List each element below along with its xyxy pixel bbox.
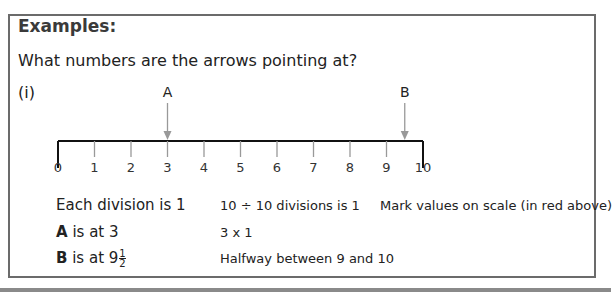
tick-label: 4 [200,160,208,175]
row-division-mid: 10 ÷ 10 divisions is 1 [220,198,360,213]
label-b: B [56,249,67,267]
row-b-left: B is at 912 [56,249,126,268]
tick-label: 6 [273,160,281,175]
tick-label: 3 [163,160,171,175]
tick-label: 7 [309,160,317,175]
arrow-label-a: A [163,84,173,100]
tick-label: 5 [236,160,244,175]
row-a-left: A is at 3 [56,223,119,241]
row-division-right: Mark values on scale (in red above) [380,198,612,213]
row-division-left: Each division is 1 [56,196,186,214]
fraction-half: 12 [119,249,125,268]
row-a-mid: 3 x 1 [220,225,253,240]
tick-label: 1 [90,160,98,175]
row-b-text: is at 9 [67,249,118,267]
arrow-label-b: B [400,84,410,100]
tick-label: 0 [54,160,62,175]
tick-label: 9 [382,160,390,175]
row-a-text: is at 3 [68,223,119,241]
tick-label: 10 [415,160,432,175]
row-b-mid: Halfway between 9 and 10 [220,251,394,266]
tick-label: 8 [346,160,354,175]
tick-label: 2 [127,160,135,175]
label-a: A [56,223,68,241]
